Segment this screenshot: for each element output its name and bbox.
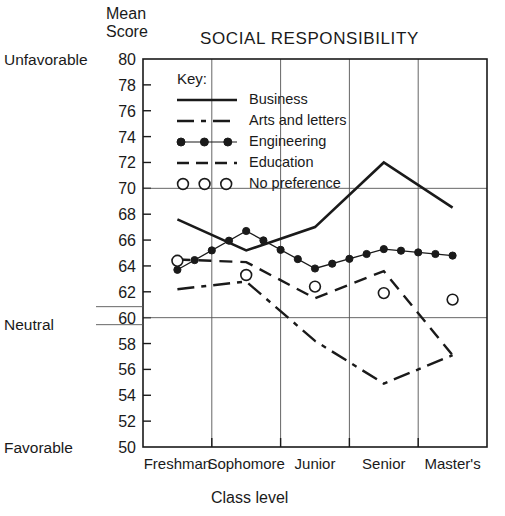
y-axis-tick-label: 80 bbox=[118, 51, 136, 68]
legend-swatch-filled-circle bbox=[177, 138, 185, 146]
y-axis-tick-label: 74 bbox=[118, 129, 136, 146]
legend-swatch-open-circle bbox=[199, 179, 210, 190]
data-point-marker bbox=[225, 237, 232, 244]
y-axis-tick-label: 52 bbox=[118, 413, 136, 430]
x-axis-label-master-s: Master's bbox=[424, 455, 480, 472]
data-point-marker bbox=[415, 249, 422, 256]
x-axis-label-sophomore: Sophomore bbox=[207, 455, 285, 472]
y-axis-tick-label: 68 bbox=[118, 206, 136, 223]
data-point-marker bbox=[329, 260, 336, 267]
chart-figure: Mean Score SOCIAL RESPONSIBILITY Unfavor… bbox=[0, 0, 505, 516]
chart-title: SOCIAL RESPONSIBILITY bbox=[200, 29, 419, 48]
data-point-marker bbox=[241, 270, 252, 281]
data-point-marker bbox=[449, 252, 456, 259]
y-axis-tick-label: 72 bbox=[118, 154, 136, 171]
data-point-marker bbox=[378, 288, 389, 299]
data-point-marker bbox=[260, 237, 267, 244]
y-axis-tick-label: 56 bbox=[118, 361, 136, 378]
legend-swatch-filled-circle bbox=[200, 138, 208, 146]
y-axis-tick-label: 76 bbox=[118, 103, 136, 120]
y-axis-tick-label: 64 bbox=[118, 258, 136, 275]
data-point-marker bbox=[380, 246, 387, 253]
legend-swatch-open-circle bbox=[221, 179, 232, 190]
data-point-marker bbox=[243, 227, 250, 234]
data-point-marker bbox=[432, 250, 439, 257]
y-axis-tick-label: 54 bbox=[118, 387, 136, 404]
legend-item-label: Arts and letters bbox=[249, 112, 347, 128]
anchor-label-neutral: Neutral bbox=[4, 316, 54, 333]
legend-item-label: Business bbox=[249, 91, 308, 107]
x-axis-label-senior: Senior bbox=[362, 455, 405, 472]
legend-item-label: Education bbox=[249, 154, 314, 170]
legend-item-label: Engineering bbox=[249, 133, 326, 149]
y-axis-tick-label: 78 bbox=[118, 77, 136, 94]
data-point-marker bbox=[294, 256, 301, 263]
y-axis-tick-label: 60 bbox=[118, 310, 136, 327]
data-point-marker bbox=[363, 250, 370, 257]
y-axis-unit-line1: Mean bbox=[106, 5, 146, 22]
data-point-marker bbox=[311, 265, 318, 272]
x-axis-label-junior: Junior bbox=[295, 455, 336, 472]
x-axis-title: Class level bbox=[211, 489, 288, 506]
chart-background bbox=[0, 0, 505, 516]
legend-swatch-filled-circle bbox=[224, 138, 232, 146]
y-axis-tick-label: 62 bbox=[118, 284, 136, 301]
legend-title: Key: bbox=[177, 70, 207, 87]
legend-swatch-open-circle bbox=[178, 179, 189, 190]
data-point-marker bbox=[277, 246, 284, 253]
data-point-marker bbox=[174, 266, 181, 273]
data-point-marker bbox=[208, 247, 215, 254]
data-point-marker bbox=[346, 255, 353, 262]
anchor-label-favorable: Favorable bbox=[4, 439, 73, 456]
y-axis-unit-line2: Score bbox=[106, 23, 148, 40]
y-axis-tick-label: 58 bbox=[118, 336, 136, 353]
social-responsibility-line-chart: Mean Score SOCIAL RESPONSIBILITY Unfavor… bbox=[0, 0, 505, 516]
data-point-marker bbox=[310, 281, 321, 292]
x-axis-label-group: FreshmanSophomoreJuniorSeniorMaster's bbox=[144, 455, 481, 472]
data-point-marker bbox=[172, 255, 183, 266]
y-axis-tick-label: 66 bbox=[118, 232, 136, 249]
legend-item-label: No preference bbox=[249, 175, 341, 191]
x-axis-label-freshman: Freshman bbox=[144, 455, 212, 472]
y-axis-tick-label: 70 bbox=[118, 180, 136, 197]
data-point-marker bbox=[397, 247, 404, 254]
y-axis-tick-label: 50 bbox=[118, 439, 136, 456]
data-point-marker bbox=[191, 257, 198, 264]
anchor-label-unfavorable: Unfavorable bbox=[4, 51, 88, 68]
data-point-marker bbox=[447, 294, 458, 305]
